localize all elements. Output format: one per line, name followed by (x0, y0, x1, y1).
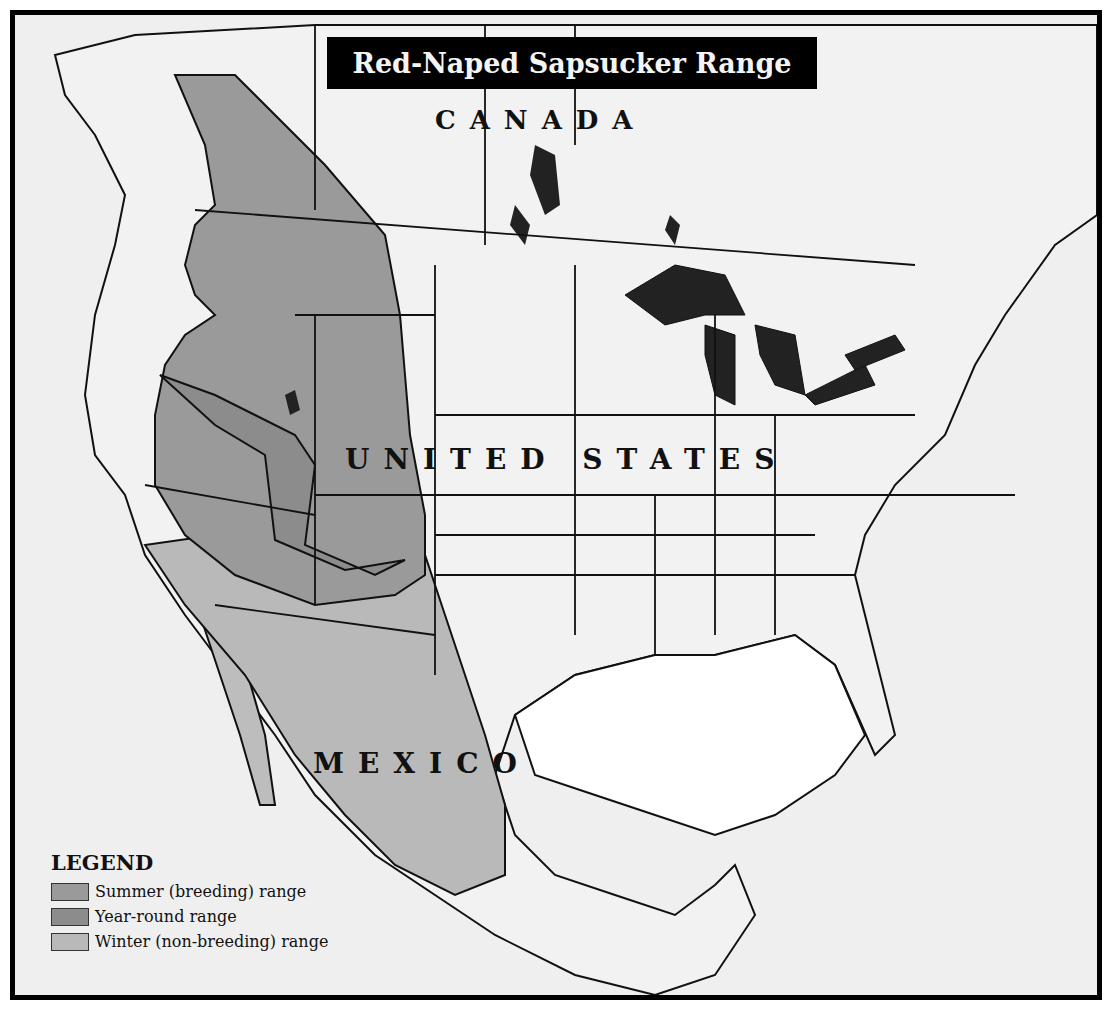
legend-item-year-round: Year-round range (51, 904, 328, 929)
legend-title: LEGEND (51, 850, 328, 875)
range-map: Red-Naped Sapsucker Range CANADA UNITED … (10, 10, 1102, 1000)
legend-item-winter: Winter (non-breeding) range (51, 929, 328, 954)
legend-label: Winter (non-breeding) range (95, 932, 328, 951)
map-frame: Red-Naped Sapsucker Range CANADA UNITED … (0, 0, 1115, 1012)
summer-swatch-icon (51, 883, 89, 901)
map-title: Red-Naped Sapsucker Range (327, 37, 817, 89)
legend-label: Year-round range (95, 907, 237, 926)
year-round-swatch-icon (51, 908, 89, 926)
winter-swatch-icon (51, 933, 89, 951)
label-mexico: MEXICO (313, 747, 531, 780)
map-graphic (15, 15, 1097, 995)
label-canada: CANADA (435, 105, 647, 135)
legend-label: Summer (breeding) range (95, 882, 306, 901)
legend: LEGEND Summer (breeding) range Year-roun… (51, 850, 328, 954)
label-united-states: UNITED STATES (345, 443, 788, 476)
legend-item-summer: Summer (breeding) range (51, 879, 328, 904)
